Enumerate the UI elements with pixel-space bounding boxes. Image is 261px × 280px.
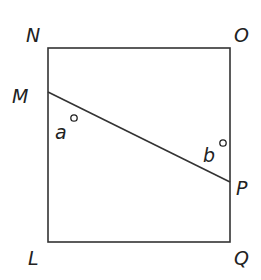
vertex-label-n: N bbox=[26, 24, 40, 46]
segment-mp bbox=[48, 92, 230, 182]
vertex-label-o: O bbox=[234, 24, 249, 46]
vertex-label-l: L bbox=[28, 247, 39, 269]
degree-icon-b bbox=[220, 140, 226, 146]
angle-label-a: a bbox=[55, 121, 67, 143]
point-label-m: M bbox=[12, 85, 28, 107]
angle-label-b: b bbox=[203, 144, 215, 166]
vertex-label-q: Q bbox=[234, 247, 249, 269]
degree-icon-a bbox=[71, 115, 77, 121]
point-label-p: P bbox=[236, 177, 248, 199]
geometry-diagram: N O M P L Q a b bbox=[0, 0, 261, 280]
